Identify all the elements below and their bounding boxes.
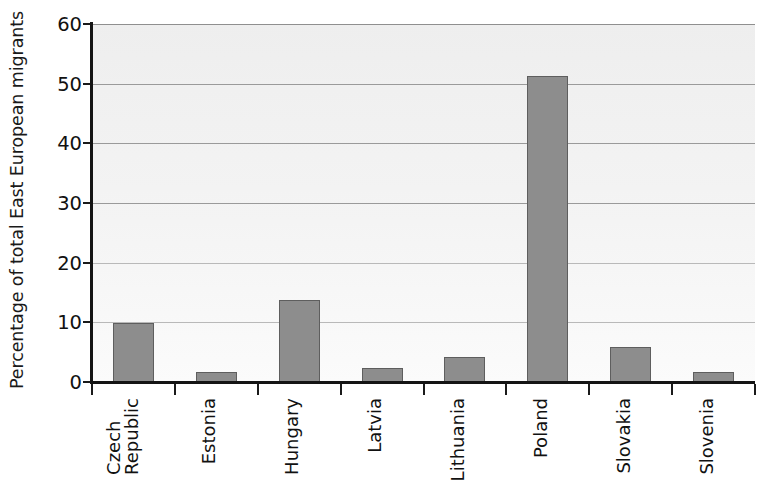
- x-tick-label: CzechRepublic: [105, 398, 141, 475]
- x-tick-label-container: CzechRepublic: [87, 398, 179, 487]
- y-tick-label: 30: [57, 192, 82, 215]
- x-tick-label-container: Slovakia: [585, 398, 677, 487]
- gridline: [92, 203, 755, 204]
- gridline: [92, 24, 755, 25]
- gridline: [92, 143, 755, 144]
- x-tick-mark: [423, 384, 425, 395]
- y-axis-title-container: Percentage of total East European migran…: [0, 0, 34, 400]
- bar: [444, 357, 485, 382]
- y-tick-label: 0: [70, 371, 82, 394]
- x-tick-label: Latvia: [364, 398, 385, 453]
- x-tick-mark: [588, 384, 590, 395]
- gridline: [92, 322, 755, 323]
- y-tick-label: 40: [57, 132, 82, 155]
- gridline: [92, 263, 755, 264]
- y-tick-label: 10: [57, 311, 82, 334]
- x-tick-label: Slovenia: [696, 398, 717, 475]
- x-tick-label-container: Poland: [502, 398, 594, 487]
- x-tick-mark: [257, 384, 259, 395]
- x-tick-label: Lithuania: [447, 398, 468, 481]
- bar: [610, 347, 651, 382]
- x-tick-label-container: Estonia: [170, 398, 262, 487]
- x-axis-spine: [90, 381, 755, 384]
- x-tick-label-line: Czech: [103, 421, 124, 475]
- x-tick-label-container: Slovenia: [668, 398, 760, 487]
- x-tick-mark: [174, 384, 176, 395]
- y-axis-title: Percentage of total East European migran…: [7, 11, 27, 389]
- bar: [362, 368, 403, 382]
- x-tick-label-container: Latvia: [336, 398, 428, 487]
- x-tick-label: Poland: [530, 398, 551, 458]
- bar: [113, 323, 154, 382]
- x-tick-mark: [754, 384, 756, 395]
- x-tick-mark: [671, 384, 673, 395]
- x-tick-label-line: Slovakia: [613, 398, 634, 474]
- plot-area: [92, 24, 755, 382]
- x-tick-label-line: Slovenia: [696, 398, 717, 475]
- x-tick-label-line: Hungary: [281, 398, 302, 475]
- x-tick-label-line: Poland: [530, 398, 551, 458]
- x-tick-label: Hungary: [281, 398, 302, 475]
- x-tick-label-line: Republic: [123, 398, 141, 475]
- x-tick-label-line: Estonia: [198, 398, 219, 464]
- y-axis-ticks: 0102030405060: [34, 0, 92, 400]
- bar: [279, 300, 320, 382]
- x-tick-label: Estonia: [198, 398, 219, 464]
- y-tick-label: 20: [57, 251, 82, 274]
- x-tick-label-container: Lithuania: [419, 398, 511, 487]
- gridline: [92, 84, 755, 85]
- x-tick-mark: [340, 384, 342, 395]
- x-tick-label: Slovakia: [613, 398, 634, 474]
- x-tick-label-line: Lithuania: [447, 398, 468, 481]
- y-tick-label: 50: [57, 72, 82, 95]
- x-tick-label-line: Latvia: [364, 398, 385, 453]
- x-tick-label-container: Hungary: [253, 398, 345, 487]
- x-tick-mark: [505, 384, 507, 395]
- bar: [527, 76, 568, 382]
- y-tick-label: 60: [57, 13, 82, 36]
- y-axis-spine: [90, 22, 93, 384]
